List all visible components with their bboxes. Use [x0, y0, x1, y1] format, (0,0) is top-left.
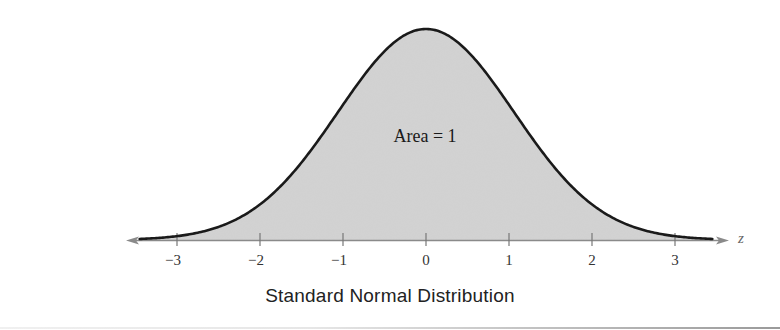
- x-tick-label: 1: [505, 252, 513, 268]
- x-tick-label: 0: [422, 252, 430, 268]
- chart-title: Standard Normal Distribution: [0, 285, 780, 307]
- x-tick-label: 3: [671, 252, 679, 268]
- area-annotation: Area = 1: [393, 126, 456, 146]
- bottom-divider: [0, 327, 780, 329]
- x-tick-label: −3: [165, 252, 181, 268]
- normal-distribution-chart: −3−2−10123 z Area = 1: [0, 0, 780, 330]
- x-tick-label: −2: [248, 252, 264, 268]
- x-tick-label: 2: [588, 252, 596, 268]
- x-tick-label: −1: [331, 252, 347, 268]
- x-axis-variable-label: z: [737, 230, 744, 246]
